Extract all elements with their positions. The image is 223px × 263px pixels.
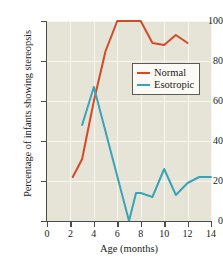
y-axis-tick-label: 100 [185,15,223,26]
y-axis-tick-label: 60 [185,95,223,106]
y-axis-tick [41,181,46,182]
series-container [47,21,211,221]
y-axis-line [46,21,47,222]
y-axis-title: Percentage of infants showing stereopsis [22,9,33,219]
x-axis-tick-label: 4 [81,228,107,239]
y-axis-tick-label: 40 [185,135,223,146]
y-axis-tick [41,101,46,102]
y-axis-tick [41,141,46,142]
gridline-vertical [211,21,212,221]
x-axis-tick [141,222,142,227]
x-axis-tick [47,222,48,227]
x-axis-tick [94,222,95,227]
plot-area [47,21,211,221]
x-axis-tick-label: 2 [57,228,83,239]
x-axis-tick [188,222,189,227]
legend-swatch-normal [137,72,150,74]
y-axis-tick [41,21,46,22]
x-axis-tick-label: 10 [151,228,177,239]
x-axis-tick-label: 0 [34,228,60,239]
x-axis-tick-label: 6 [104,228,130,239]
x-axis-tick [70,222,71,227]
chart-legend: Normal Esotropic [132,63,200,95]
legend-label-esotropic: Esotropic [154,79,194,91]
y-axis-tick [41,221,46,222]
x-axis-tick-label: 8 [128,228,154,239]
y-axis-tick-label: 0 [185,215,223,226]
x-axis-tick [211,222,212,227]
legend-label-normal: Normal [154,67,186,79]
x-axis-tick [117,222,118,227]
legend-swatch-esotropic [137,84,150,86]
x-axis-tick [164,222,165,227]
line-series-esotropic [82,87,211,221]
legend-item-normal: Normal [137,67,194,79]
y-axis-tick-label: 20 [185,175,223,186]
x-axis-title: Age (months) [47,243,211,254]
x-axis-tick-label: 12 [175,228,201,239]
x-axis-tick-label: 14 [198,228,223,239]
legend-item-esotropic: Esotropic [137,79,194,91]
y-axis-tick [41,61,46,62]
chart-figure: Percentage of infants showing stereopsis… [0,0,223,263]
